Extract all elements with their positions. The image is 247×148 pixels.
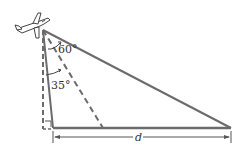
dimension-arrow-right	[224, 135, 230, 139]
angle-label-60: 60°	[58, 43, 78, 56]
right-angle-marker	[45, 121, 51, 127]
diagram-canvas: 60° 35° d	[0, 0, 247, 148]
dimension-arrow-left	[54, 135, 60, 139]
angle-label-35: 35°	[51, 79, 71, 92]
distance-label: d	[135, 131, 142, 144]
